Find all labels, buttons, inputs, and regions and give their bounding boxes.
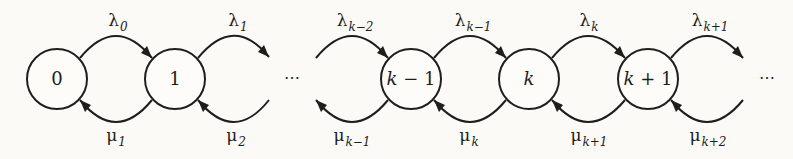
rate-label-lambda-k-1: λk−1	[455, 12, 492, 33]
state-label-k-minus-1: k − 1	[387, 70, 436, 88]
rate-label-mu-k-1: μk−1	[333, 127, 370, 148]
rate-label-lambda-1: λ1	[228, 12, 247, 33]
birth-death-diagram: 0 1 k − 1 k k + 1 ⋯ ⋯ λ0 λ1 λk−2 λk−1 λk…	[0, 0, 793, 159]
arc-mu-1	[80, 100, 152, 122]
ellipsis-middle: ⋯	[284, 70, 301, 86]
arc-mu-k+2	[671, 100, 743, 122]
rate-label-lambda-k+1: λk+1	[692, 12, 729, 33]
rate-label-mu-k+1: μk+1	[570, 127, 607, 148]
state-label-0: 0	[51, 70, 62, 88]
arc-mu-2	[198, 100, 269, 122]
arc-lambda-k-1	[434, 36, 506, 58]
arc-lambda-k	[552, 36, 625, 58]
arc-lambda-k+1	[671, 36, 743, 58]
arc-lambda-k-2	[316, 36, 388, 58]
rate-label-lambda-k: λk	[579, 12, 598, 33]
rate-label-mu-1: μ1	[106, 127, 126, 148]
arc-lambda-1	[198, 36, 269, 58]
rate-label-lambda-k-2: λk−2	[337, 12, 374, 33]
arc-lambda-0	[80, 36, 152, 58]
ellipsis-right: ⋯	[759, 70, 776, 86]
rate-label-mu-k+2: μk+2	[689, 127, 726, 148]
state-label-k-plus-1: k + 1	[624, 70, 673, 88]
state-label-k: k	[524, 70, 535, 88]
rate-label-lambda-0: λ0	[108, 12, 127, 33]
arc-mu-k	[434, 100, 506, 122]
arc-mu-k+1	[552, 100, 625, 122]
state-label-1: 1	[169, 70, 180, 88]
rate-label-mu-2: μ2	[226, 127, 246, 148]
arc-mu-k-1	[316, 100, 388, 122]
rate-label-mu-k: μk	[459, 127, 478, 148]
